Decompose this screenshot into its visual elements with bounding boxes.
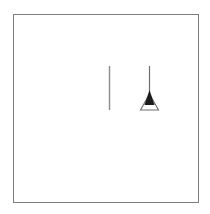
drawing-canvas bbox=[0, 0, 210, 214]
artwork-svg bbox=[0, 0, 210, 214]
border-frame bbox=[14, 15, 199, 203]
